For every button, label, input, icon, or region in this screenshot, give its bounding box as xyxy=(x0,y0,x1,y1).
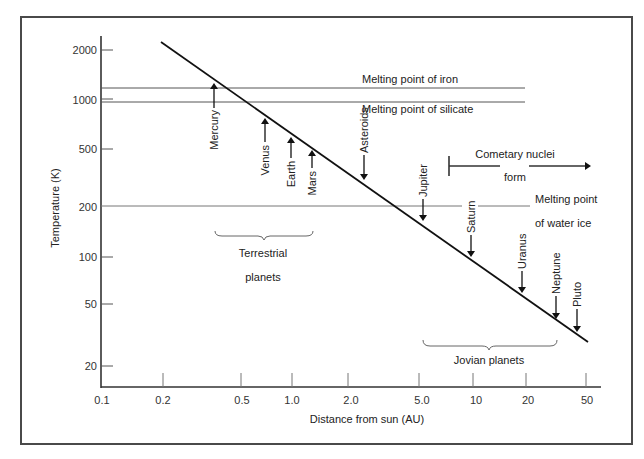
svg-text:Mercury: Mercury xyxy=(208,110,220,150)
ice-label-2: of water ice xyxy=(535,217,591,229)
y-ticks xyxy=(101,50,113,366)
svg-text:Saturn: Saturn xyxy=(465,201,477,233)
temperature-line xyxy=(161,42,588,342)
svg-text:0.2: 0.2 xyxy=(155,394,170,406)
svg-text:100: 100 xyxy=(79,251,97,263)
iron-label: Melting point of iron xyxy=(362,73,458,85)
jovian-brace xyxy=(423,340,557,350)
y-axis-title: Temperature (K) xyxy=(49,168,61,247)
svg-text:10: 10 xyxy=(470,394,482,406)
svg-text:5.0: 5.0 xyxy=(414,394,429,406)
svg-text:1.0: 1.0 xyxy=(284,394,299,406)
y-tick-labels: 2000 1000 500 200 100 50 20 xyxy=(73,44,97,372)
svg-text:50: 50 xyxy=(85,298,97,310)
svg-text:1000: 1000 xyxy=(73,94,97,106)
svg-text:Venus: Venus xyxy=(259,145,271,176)
terrestrial-label-2: planets xyxy=(245,271,281,283)
comet-label-2: form xyxy=(504,171,526,183)
svg-text:200: 200 xyxy=(79,201,97,213)
jovian-label: Jovian planets xyxy=(454,354,525,366)
svg-text:Uranus: Uranus xyxy=(516,233,528,269)
x-ticks xyxy=(163,373,586,387)
svg-text:20: 20 xyxy=(522,394,534,406)
svg-text:500: 500 xyxy=(79,143,97,155)
svg-text:2.0: 2.0 xyxy=(343,394,358,406)
ice-label-1: Melting point xyxy=(535,193,597,205)
x-axis-title: Distance from sun (AU) xyxy=(310,413,424,425)
svg-text:Earth: Earth xyxy=(285,161,297,187)
svg-text:50: 50 xyxy=(581,394,593,406)
svg-text:20: 20 xyxy=(85,360,97,372)
svg-text:Mars: Mars xyxy=(306,171,318,196)
svg-text:2000: 2000 xyxy=(73,44,97,56)
terrestrial-brace xyxy=(215,231,313,240)
svg-text:0.1: 0.1 xyxy=(94,394,109,406)
svg-text:Pluto: Pluto xyxy=(571,282,583,307)
svg-text:Neptune: Neptune xyxy=(550,252,562,294)
silicate-label: Melting point of silicate xyxy=(362,103,473,115)
chart: 2000 1000 500 200 100 50 20 0.1 0.2 0.5 … xyxy=(0,0,644,459)
comet-label-1: Cometary nuclei xyxy=(475,148,554,160)
svg-text:Jupiter: Jupiter xyxy=(417,164,429,197)
svg-text:Asteroids: Asteroids xyxy=(358,107,370,153)
terrestrial-label-1: Terrestrial xyxy=(239,247,287,259)
x-tick-labels: 0.1 0.2 0.5 1.0 2.0 5.0 10 20 50 xyxy=(94,394,593,406)
svg-text:0.5: 0.5 xyxy=(234,394,249,406)
